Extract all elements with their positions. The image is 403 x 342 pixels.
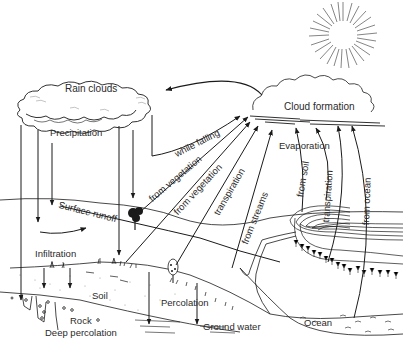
evaporation-label: Evaporation [279,141,330,151]
cloud-formation-label: Cloud formation [284,102,355,112]
tree-icon [168,259,178,283]
water-cycle-diagram: Rain clouds Cloud formation Precipitatio… [0,0,403,342]
ground-water-label: Ground water [203,322,261,332]
precipitation-label: Precipitation [50,128,102,138]
deep-percolation-label: Deep percolation [45,328,117,338]
sun-icon [309,2,377,68]
precipitation-arrows [21,125,197,324]
ocean-contours [290,206,403,264]
condensation-arrow [166,81,262,95]
ocean-label: Ocean [304,318,332,328]
marsh-vegetation [294,240,398,279]
surface-runoff-arrow [40,228,86,233]
tree-icon [128,207,143,230]
infiltration-label: Infiltration [35,249,76,259]
soil-label: Soil [92,291,108,301]
rock-label: Rock [70,316,92,326]
from-ocean-label: from ocean [361,177,372,225]
rain-clouds-label: Rain clouds [65,84,117,94]
percolation-label: Percolation [161,298,209,308]
diagram-artwork [0,0,403,342]
